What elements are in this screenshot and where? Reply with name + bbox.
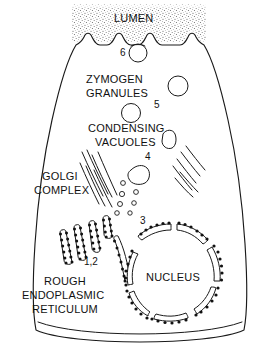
golgi-complex-cisternae (80, 150, 117, 207)
transport-vesicles (115, 181, 139, 216)
step-number-6: 6 (120, 47, 126, 58)
label-lumen: LUMEN (114, 12, 154, 24)
golgi-complex-cisternae-right (173, 146, 205, 197)
label-golgi-line2: COMPLEX (34, 184, 90, 196)
step-number-5: 5 (154, 99, 160, 110)
label-zymogen-granules-line2: GRANULES (86, 87, 148, 99)
step-number-3: 3 (140, 215, 146, 226)
label-rough-er-line2: ENDOPLASMIC (22, 289, 104, 301)
acinar-cell-svg: 6 ZYMOGEN GRANULES 5 CONDENSING VACUOLES… (0, 0, 271, 356)
label-golgi-line1: GOLGI (42, 170, 78, 182)
label-condensing-vacuoles-line2: VACUOLES (95, 136, 156, 148)
step-number-1-2: 1,2 (84, 256, 98, 267)
label-zymogen-granules-line1: ZYMOGEN (86, 73, 143, 85)
label-rough-er-line3: RETICULUM (32, 303, 98, 315)
exocytosis-vesicle (129, 44, 147, 62)
label-rough-er-line1: ROUGH (44, 275, 86, 287)
cell-diagram-figure: 6 ZYMOGEN GRANULES 5 CONDENSING VACUOLES… (0, 0, 271, 356)
label-nucleus: NUCLEUS (146, 271, 200, 283)
rough-er (59, 216, 130, 283)
label-condensing-vacuoles-line1: CONDENSING (88, 122, 165, 134)
step-number-4: 4 (145, 151, 151, 162)
